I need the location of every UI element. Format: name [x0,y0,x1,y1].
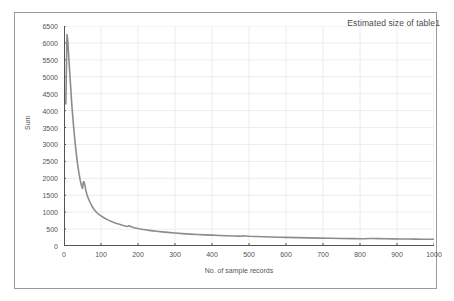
chart-window: Estimated size of table1 Sum No. of samp… [0,0,454,301]
line-chart-svg [64,26,434,246]
plot-area [64,26,434,246]
y-axis-title: Sum [24,116,31,130]
x-axis-title: No. of sample records [181,267,273,274]
series-line-0 [66,34,434,239]
x-axis-title-wrap: No. of sample records [0,267,454,274]
gridlines [64,26,434,246]
